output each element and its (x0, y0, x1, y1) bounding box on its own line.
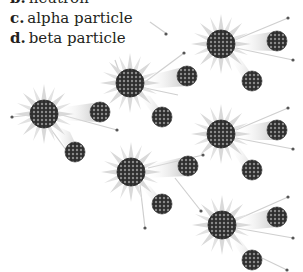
fissioning-nuclei (14, 14, 252, 255)
fission-fragments (65, 31, 287, 270)
chain-reaction-diagram (0, 0, 303, 272)
free-neutrons (10, 16, 294, 271)
neutron-trails (12, 18, 293, 270)
fragment-trails (52, 31, 277, 266)
